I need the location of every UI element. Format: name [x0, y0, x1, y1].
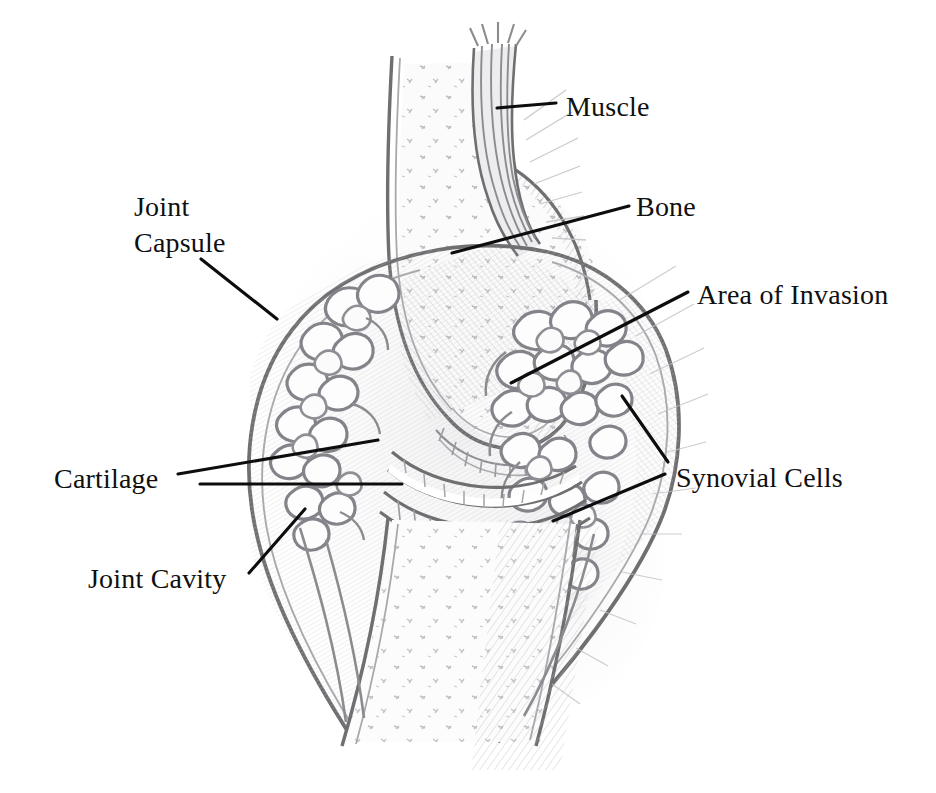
synovial-joint-figure: Muscle Bone Area of Invasion Joint Capsu…: [0, 0, 936, 793]
joint-illustration-svg: Muscle Bone Area of Invasion Joint Capsu…: [0, 0, 936, 793]
label-joint-capsule-line1: Joint: [134, 191, 189, 222]
label-joint-cavity: Joint Cavity: [88, 563, 227, 594]
label-area-of-invasion: Area of Invasion: [697, 279, 888, 310]
label-muscle: Muscle: [566, 91, 650, 122]
label-joint-capsule-line2: Capsule: [134, 227, 226, 258]
label-bone: Bone: [636, 191, 696, 222]
label-synovial-cells: Synovial Cells: [676, 462, 843, 493]
label-cartilage: Cartilage: [54, 463, 158, 494]
